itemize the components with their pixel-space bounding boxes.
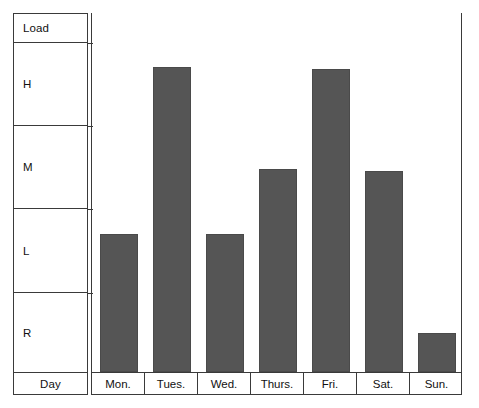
- y-axis-header-cell: Load: [14, 14, 87, 43]
- y-axis-band-r: R: [14, 293, 87, 373]
- bar-sat[interactable]: [365, 171, 403, 372]
- x-axis-label-row: Mon. Tues. Wed. Thurs. Fri. Sat. Sun.: [91, 373, 462, 395]
- x-axis-label-tues: Tues.: [145, 373, 198, 394]
- bar-slot-sat: [357, 13, 410, 372]
- bar-wed[interactable]: [206, 234, 244, 372]
- bar-fri[interactable]: [312, 69, 350, 372]
- x-axis-title: Day: [14, 378, 87, 390]
- x-axis-label-mon: Mon.: [92, 373, 145, 394]
- load-by-day-bar-chart: Load H M L R Day: [0, 0, 479, 408]
- bar-sun[interactable]: [418, 333, 456, 372]
- x-axis-label-thurs: Thurs.: [251, 373, 304, 394]
- bar-tues[interactable]: [153, 67, 191, 372]
- x-axis-label-sun: Sun.: [410, 373, 463, 394]
- y-axis-label-column: Load H M L R Day: [13, 13, 88, 395]
- y-axis-tick-label-r: R: [23, 327, 31, 339]
- y-axis-tick-label-m: M: [23, 161, 33, 173]
- bar-slot-sun: [410, 13, 463, 372]
- y-axis-band-m: M: [14, 126, 87, 209]
- bar-mon[interactable]: [100, 234, 138, 372]
- y-axis-title: Load: [23, 22, 49, 34]
- bar-slot-thurs: [251, 13, 304, 372]
- bar-series-load: [92, 13, 461, 372]
- y-axis-band-l: L: [14, 209, 87, 293]
- bar-slot-wed: [198, 13, 251, 372]
- y-axis-tick-label-l: L: [23, 245, 30, 257]
- bar-slot-tues: [145, 13, 198, 372]
- x-axis-label-fri: Fri.: [304, 373, 357, 394]
- bar-thurs[interactable]: [259, 169, 297, 372]
- plot-area: [91, 13, 462, 373]
- bar-slot-fri: [304, 13, 357, 372]
- bar-slot-mon: [92, 13, 145, 372]
- x-axis-label-wed: Wed.: [198, 373, 251, 394]
- y-axis-band-h: H: [14, 43, 87, 126]
- x-axis-label-sat: Sat.: [357, 373, 410, 394]
- x-axis-title-cell: Day: [14, 373, 87, 394]
- y-axis-tick-label-h: H: [23, 78, 31, 90]
